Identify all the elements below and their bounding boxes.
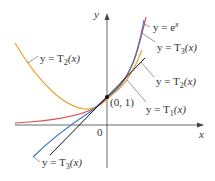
label-t3-bottom: y = T3(x) (42, 156, 82, 171)
label-t1: y = T1(x) (146, 103, 186, 118)
x-axis-label: x (198, 128, 204, 140)
label-t2-left: y = T2(x) (40, 52, 80, 67)
label-t3-top: y = T3(x) (157, 41, 197, 56)
y-axis-arrow-icon (105, 13, 110, 20)
label-exp: y = ex (153, 20, 179, 33)
x-axis-arrow-icon (197, 123, 204, 128)
origin-label: 0 (97, 126, 103, 138)
y-axis-label: y (93, 8, 99, 20)
label-t2-right: y = T2(x) (156, 75, 196, 90)
taylor-polynomials-chart: y x 0 (0, 1) y = ex y = T3(x) y = T2(x) … (0, 0, 215, 181)
point-0-1 (105, 95, 109, 99)
point-label: (0, 1) (110, 96, 134, 109)
